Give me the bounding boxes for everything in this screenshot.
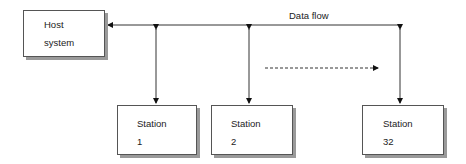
station-2-box: Station 2 (211, 105, 293, 155)
station-label: Station (383, 118, 413, 129)
station-label: Station (137, 118, 167, 129)
station-number: 2 (231, 136, 236, 147)
station-number: 32 (383, 136, 394, 147)
host-label-line2: system (44, 37, 74, 48)
host-label-line1: Host (44, 19, 64, 30)
station-32-box: Station 32 (362, 105, 444, 155)
station-label: Station (231, 118, 261, 129)
data-flow-label: Data flow (289, 10, 329, 21)
station-1-box: Station 1 (117, 105, 197, 155)
station-number: 1 (137, 136, 142, 147)
host-system-box: Host system (23, 10, 105, 57)
